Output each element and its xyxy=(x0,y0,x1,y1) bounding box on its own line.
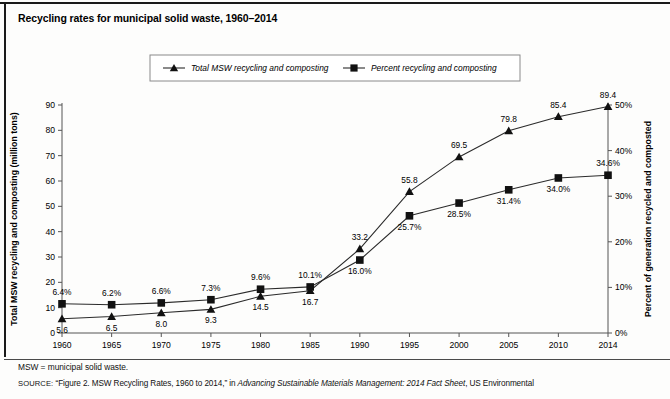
x-axis-tick-label: 1960 xyxy=(52,340,71,350)
x-axis-tick-label: 1990 xyxy=(350,340,369,350)
y-axis-left-tick-label: 50 xyxy=(45,201,55,211)
data-point-square-marker xyxy=(406,212,414,220)
y-axis-right-tick-label: 50% xyxy=(615,100,633,110)
y-axis-left-tick-label: 40 xyxy=(45,227,55,237)
figure-page: Recycling rates for municipal solid wast… xyxy=(0,0,670,399)
page-rule-footer xyxy=(4,359,670,360)
x-axis-tick-label: 1980 xyxy=(251,340,270,350)
data-point-label: 69.5 xyxy=(451,140,468,150)
data-point-label: 28.5% xyxy=(447,209,471,219)
data-point-label: 89.4 xyxy=(600,90,617,100)
data-point-square-marker xyxy=(306,283,314,291)
data-point-label: 33.2 xyxy=(352,232,369,242)
y-axis-left-tick-label: 10 xyxy=(45,303,55,313)
y-axis-left-tick-label: 80 xyxy=(45,125,55,135)
data-point-label: 8.0 xyxy=(155,319,167,329)
data-point-square-marker xyxy=(108,301,116,309)
data-point-label: 55.8 xyxy=(401,175,418,185)
source-text-last: , US Environmental xyxy=(465,379,534,388)
y-axis-right-tick-label: 30% xyxy=(615,191,633,201)
data-point-label: 7.3% xyxy=(201,283,221,293)
y-axis-left-tick-label: 60 xyxy=(45,176,55,186)
chart-container: Total MSW recycling and compostingPercen… xyxy=(0,50,670,350)
data-point-square-marker xyxy=(157,299,165,307)
y-axis-left-tick-label: 30 xyxy=(45,252,55,262)
data-point-label: 25.7% xyxy=(398,222,422,232)
data-point-label: 16.7 xyxy=(302,297,319,307)
data-point-label: 10.1% xyxy=(298,270,322,280)
data-point-label: 6.2% xyxy=(102,288,122,298)
y-axis-right-tick-label: 20% xyxy=(615,237,633,247)
source-label: SOURCE: xyxy=(18,379,53,388)
data-point-triangle-marker xyxy=(455,153,464,161)
abbreviation-note: MSW = municipal solid waste. xyxy=(18,362,658,372)
data-point-triangle-marker xyxy=(405,187,414,195)
source-note: SOURCE: “Figure 2. MSW Recycling Rates, … xyxy=(18,379,658,390)
y-axis-right-title: Percent of generation recycled and compo… xyxy=(643,121,653,317)
y-axis-left-title: Total MSW recycling and composting (mill… xyxy=(9,112,19,325)
x-axis-tick-label: 2005 xyxy=(499,340,518,350)
data-point-square-marker xyxy=(555,174,563,182)
y-axis-left-tick-label: 90 xyxy=(45,100,55,110)
page-title: Recycling rates for municipal solid wast… xyxy=(18,12,277,24)
data-point-square-marker xyxy=(505,186,513,194)
data-point-label: 9.3 xyxy=(205,315,217,325)
figure-notes: MSW = municipal solid waste. SOURCE: “Fi… xyxy=(18,362,658,390)
data-point-square-marker xyxy=(455,199,463,207)
x-axis-tick-label: 1995 xyxy=(400,340,419,350)
data-point-label: 85.4 xyxy=(550,100,567,110)
legend-label-1: Percent recycling and composting xyxy=(371,63,497,73)
series-line-1 xyxy=(62,175,608,305)
series-line-0 xyxy=(62,107,608,319)
x-axis-tick-label: 1965 xyxy=(102,340,121,350)
data-point-label: 9.6% xyxy=(251,272,271,282)
data-point-square-marker xyxy=(257,285,265,293)
x-axis-tick-label: 1975 xyxy=(201,340,220,350)
legend-label-0: Total MSW recycling and composting xyxy=(191,63,329,73)
x-axis-tick-label: 2014 xyxy=(598,340,617,350)
data-point-label: 79.8 xyxy=(501,114,518,124)
data-point-label: 16.0% xyxy=(348,266,372,276)
y-axis-left-tick-label: 70 xyxy=(45,151,55,161)
x-axis-tick-label: 1985 xyxy=(301,340,320,350)
data-point-square-marker xyxy=(604,171,612,179)
y-axis-right-tick-label: 10% xyxy=(615,282,633,292)
data-point-label: 6.6% xyxy=(152,286,172,296)
data-point-square-marker xyxy=(356,256,364,264)
data-point-label: 6.4% xyxy=(52,287,72,297)
data-point-label: 31.4% xyxy=(497,196,521,206)
legend-square-marker-icon xyxy=(350,64,357,71)
source-text-first: “Figure 2. MSW Recycling Rates, 1960 to … xyxy=(56,379,238,388)
source-publication-title: Advancing Sustainable Materials Manageme… xyxy=(238,379,466,388)
x-axis-tick-label: 2000 xyxy=(450,340,469,350)
x-axis-tick-label: 2010 xyxy=(549,340,568,350)
y-axis-right-tick-label: 40% xyxy=(615,146,633,156)
y-axis-left-tick-label: 0 xyxy=(50,328,55,338)
x-axis-tick-label: 1970 xyxy=(152,340,171,350)
data-point-label: 34.6% xyxy=(596,158,620,168)
data-point-label: 6.5 xyxy=(106,323,118,333)
page-rule-top xyxy=(0,2,670,4)
data-point-triangle-marker xyxy=(604,102,613,110)
data-point-label: 14.5 xyxy=(252,302,269,312)
y-axis-right-tick-label: 0% xyxy=(615,328,628,338)
data-point-label: 34.0% xyxy=(546,184,570,194)
data-point-square-marker xyxy=(207,296,215,304)
data-point-square-marker xyxy=(58,300,66,308)
data-point-label: 5.6 xyxy=(56,325,68,335)
recycling-rates-line-chart: Total MSW recycling and compostingPercen… xyxy=(0,50,670,350)
